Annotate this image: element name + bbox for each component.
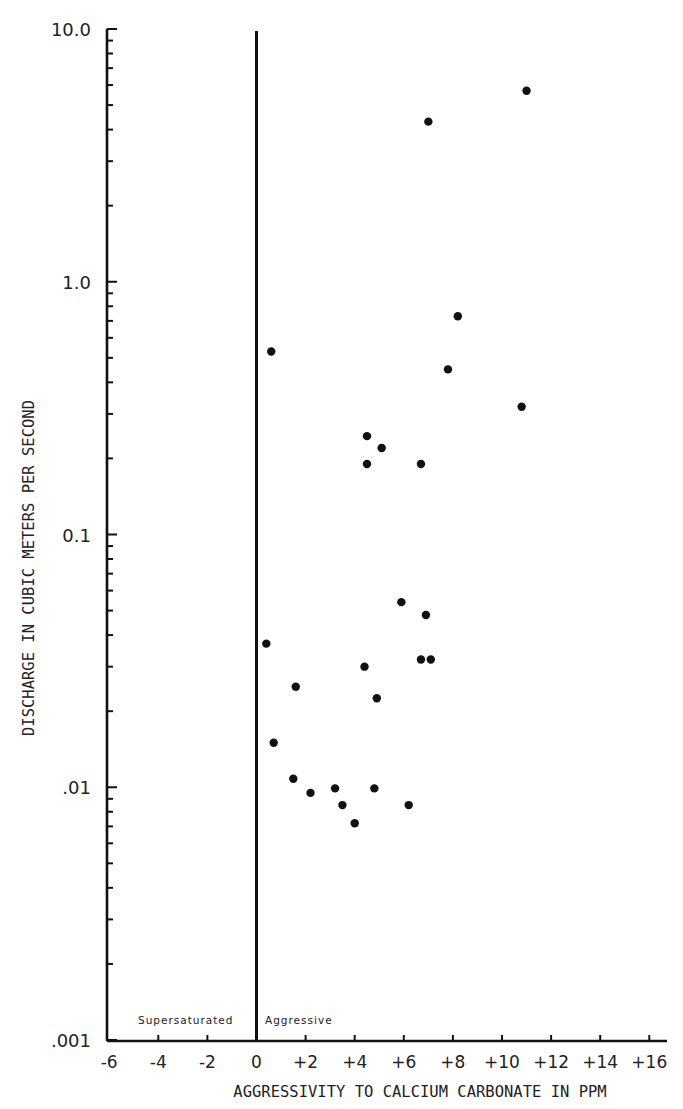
data-point [306,789,314,797]
y-tick-label: 1.0 [62,272,91,293]
x-tick-label: +6 [391,1052,416,1072]
data-point [424,117,432,125]
data-point [360,662,368,670]
y-tick-label: .001 [51,1030,91,1051]
x-tick-label: +12 [533,1052,569,1072]
x-tick-label: 0 [251,1052,262,1072]
y-tick-label: 10.0 [51,19,91,40]
data-point [269,739,277,747]
x-axis: -6-4-20+2+4+6+8+10+12+14+16 [101,1035,668,1072]
data-point [422,611,430,619]
x-axis-title: AGGRESSIVITY TO CALCIUM CARBONATE IN PPM [233,1083,606,1101]
data-point [363,460,371,468]
y-tick-label: 0.1 [62,525,91,546]
y-axis: .001.010.11.010.0 [51,19,117,1051]
data-point [397,598,405,606]
y-tick-label: .01 [62,777,91,798]
data-point [370,784,378,792]
data-point [378,444,386,452]
data-point [522,87,530,95]
x-tick-label: +4 [342,1052,367,1072]
data-point [262,639,270,647]
x-tick-label: +14 [582,1052,618,1072]
x-tick-label: +2 [293,1052,318,1072]
data-point [427,655,435,663]
data-point [331,784,339,792]
x-tick-label: -4 [150,1052,167,1072]
y-axis-title: DISCHARGE IN CUBIC METERS PER SECOND [20,400,38,736]
data-point [338,801,346,809]
data-point [405,801,413,809]
data-point [517,403,525,411]
data-point [417,460,425,468]
data-point [351,819,359,827]
x-tick-label: +10 [484,1052,520,1072]
supersaturated-label: Supersaturated [138,1014,233,1026]
scatter-chart: .001.010.11.010.0 -6-4-20+2+4+6+8+10+12+… [0,0,683,1109]
data-point [267,347,275,355]
x-tick-label: -2 [199,1052,216,1072]
data-point [363,432,371,440]
data-point [373,694,381,702]
data-point [444,365,452,373]
data-points [262,87,531,828]
data-point [292,682,300,690]
data-point [454,312,462,320]
data-point [289,775,297,783]
data-point [417,655,425,663]
x-tick-label: +16 [631,1052,667,1072]
x-tick-label: +8 [440,1052,465,1072]
aggressive-label: Aggressive [265,1014,333,1026]
x-tick-label: -6 [101,1052,118,1072]
